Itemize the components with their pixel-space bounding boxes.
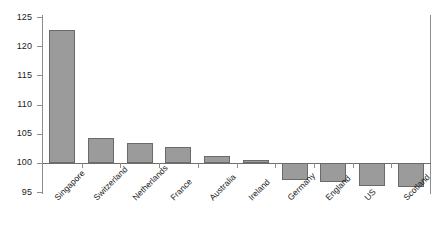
bar [165, 147, 191, 163]
bar-chart: 12512011511010510095 SingaporeSwitzerlan… [0, 0, 440, 249]
plot-right-frame [430, 15, 431, 194]
x-axis-label: Ireland [247, 178, 272, 203]
x-axis-label: US [363, 188, 378, 203]
x-axis-tick [391, 163, 392, 168]
x-axis-label: France [169, 177, 194, 202]
y-axis-tick [37, 105, 43, 106]
bar [127, 143, 153, 163]
y-axis-tick-label: 105 [0, 129, 32, 138]
y-axis-tick-label: 115 [0, 71, 32, 80]
bar [243, 160, 269, 163]
y-axis-tick-label: 100 [0, 158, 32, 167]
x-axis-label: Singapore [53, 169, 87, 203]
bar [204, 156, 230, 163]
x-axis-tick [82, 163, 83, 168]
bar [359, 163, 385, 186]
y-axis-tick [37, 75, 43, 76]
y-axis-tick-label: 120 [0, 42, 32, 51]
y-axis-tick [37, 17, 43, 18]
y-axis-tick [37, 192, 43, 193]
x-axis-tick [353, 163, 354, 168]
x-axis-label: Switzerland [92, 165, 129, 202]
x-axis-label: Netherlands [131, 164, 170, 203]
x-axis-tick [275, 163, 276, 168]
x-axis-label: Australia [208, 173, 238, 203]
x-axis-tick [314, 163, 315, 168]
x-axis-tick [198, 163, 199, 168]
y-axis-tick [37, 46, 43, 47]
y-axis-tick [37, 134, 43, 135]
x-axis-tick [237, 163, 238, 168]
bar [49, 30, 75, 163]
y-axis-tick-label: 125 [0, 13, 32, 22]
bar [88, 138, 114, 163]
y-axis-tick-label: 110 [0, 100, 32, 109]
y-axis-tick-label: 95 [0, 188, 32, 197]
y-axis-tick [37, 163, 43, 164]
